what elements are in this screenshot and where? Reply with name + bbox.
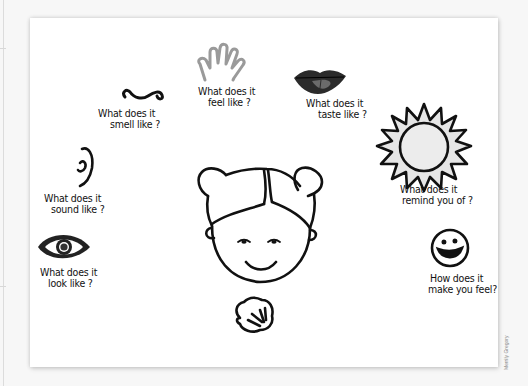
photo-credit: Merrily Gregory: [503, 336, 509, 370]
seashell-icon: [237, 298, 273, 332]
prompt-line: remind you of ?: [400, 195, 473, 206]
ear-icon: [78, 148, 92, 186]
prompt-feel: What does it feel like ?: [198, 86, 255, 108]
page-edge-rule: [3, 0, 4, 386]
prompt-line: feel like ?: [198, 97, 255, 108]
prompt-line: smell like ?: [98, 119, 160, 130]
worksheet-card: What does it smell like ? What does it f…: [30, 18, 498, 367]
prompt-remind: What does it remind you of ?: [400, 184, 473, 206]
lips-icon: [294, 70, 346, 94]
hand-icon: [199, 44, 244, 80]
prompt-line: make you feel?: [428, 284, 497, 295]
page-edge-tick: [0, 48, 6, 49]
prompt-look: What does it look like ?: [40, 267, 97, 289]
girl-face-icon: [199, 168, 322, 282]
prompt-sound: What does it sound like ?: [44, 193, 104, 215]
prompt-line: taste like ?: [306, 109, 367, 120]
nose-icon: [124, 90, 163, 99]
prompt-line: look like ?: [40, 278, 97, 289]
prompt-taste: What does it taste like ?: [306, 98, 367, 120]
prompt-smell: What does it smell like ?: [98, 108, 160, 130]
sun-icon: [377, 104, 471, 191]
eye-icon: [38, 235, 90, 258]
smiley-icon: [432, 230, 468, 266]
prompt-line: sound like ?: [44, 204, 104, 215]
page-edge-tick: [0, 286, 6, 287]
prompt-emotion: How does it make you feel?: [428, 273, 497, 295]
